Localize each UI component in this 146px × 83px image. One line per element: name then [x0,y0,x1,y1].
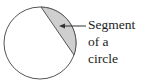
circle-segment-diagram [0,0,146,83]
label-line-2: of a [88,34,109,50]
label-line-1: Segment [88,17,135,33]
label-line-3: circle [88,51,118,67]
